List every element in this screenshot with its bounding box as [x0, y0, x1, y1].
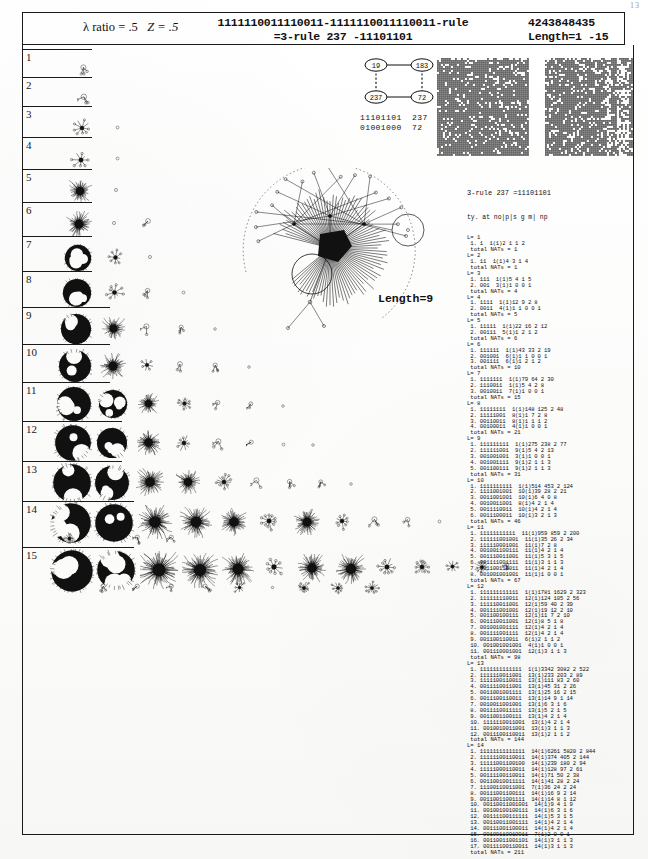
- row-number-3: 3: [26, 108, 32, 120]
- basin-glyph: [174, 433, 194, 453]
- basin-glyph: [174, 358, 189, 373]
- attractor-block: L= 12 1. 111111111111 1(1)1781 1629 2 32…: [467, 584, 627, 661]
- basin-glyph: [296, 580, 312, 596]
- attractor-block: L= 2 1. 11 1(1)4 3 1 4 total NATs = 1: [467, 253, 627, 271]
- row-separator: [22, 106, 92, 107]
- row-separator: [22, 547, 134, 548]
- attractor-block: L= 9 1. 111111111 1(1)275 238 2 77 2. 11…: [467, 436, 627, 477]
- basin-glyph: [98, 581, 111, 594]
- basin-glyph: [112, 153, 123, 164]
- row-separator: [22, 271, 92, 272]
- basin-glyph: [166, 532, 179, 545]
- basin-glyph: [77, 61, 93, 77]
- basin-glyph: [214, 472, 234, 492]
- basin-glyph: [100, 534, 109, 543]
- basin-glyph: [246, 437, 259, 450]
- basin-glyph: [138, 393, 159, 414]
- basin-glyph: [112, 122, 123, 133]
- basin-glyph: [77, 90, 94, 107]
- basin-glyph: [68, 179, 92, 203]
- row-number-14: 14: [26, 503, 37, 515]
- attractor-block: L= 7 1. 1111111 1(1)79 64 2 30 2. 111001…: [467, 371, 627, 401]
- spacetime-left: [437, 58, 529, 156]
- basin-glyph: [176, 470, 200, 494]
- basin-glyph: [98, 389, 128, 419]
- atlas-page: 13 λ ratio = .5 Z = .5 1111110011110011-…: [0, 0, 648, 859]
- basin-glyph: [178, 287, 189, 298]
- basin-glyph: [210, 360, 223, 373]
- basin-glyph: [308, 440, 318, 450]
- row-number-15: 15: [26, 549, 37, 561]
- spacetime-right: [545, 58, 633, 156]
- row-number-11: 11: [26, 384, 37, 396]
- basin-glyph: [330, 580, 346, 596]
- row-separator: [22, 137, 92, 138]
- basin-glyph: [332, 511, 352, 531]
- basin-glyph: [72, 118, 92, 138]
- basin-glyph: [298, 554, 326, 582]
- basin-glyph: [262, 555, 286, 579]
- basin-glyph: [66, 583, 75, 592]
- lambda-ratio-label: λ ratio = .5: [83, 20, 138, 34]
- row-number-9: 9: [26, 309, 32, 321]
- attractor-block: L= 14 1. 11111111111111 14(1)6261 5820 2…: [467, 743, 627, 855]
- basin-glyph: [278, 401, 288, 411]
- row-number-10: 10: [26, 346, 37, 358]
- basin-glyph: [140, 320, 156, 336]
- rule-number-block: 4243848435 Length=1 -15: [528, 16, 638, 43]
- row-separator: [22, 77, 92, 78]
- basin-glyph: [60, 313, 92, 345]
- basin-glyph: [412, 557, 432, 577]
- basin-glyph: [142, 285, 156, 299]
- row-separator: [22, 236, 92, 237]
- row-separator: [22, 461, 122, 462]
- basin-glyph: [102, 317, 125, 340]
- basin-glyph: [244, 362, 254, 372]
- basin-glyph: [376, 556, 398, 578]
- basin-glyph: [258, 510, 280, 532]
- basin-glyph: [132, 532, 145, 545]
- basin-glyph: [96, 427, 128, 459]
- basin-glyph: [144, 251, 156, 263]
- basin-glyph: [136, 468, 164, 496]
- rule-node-graph: 1918323772: [356, 55, 442, 107]
- basin-glyph: [70, 149, 92, 171]
- basin-glyph: [212, 435, 228, 451]
- attractor-block: L= 11 1. 11111111111 11(1)959 859 2 200 …: [467, 525, 627, 584]
- basin-glyph: [62, 531, 77, 546]
- basin-glyph: [246, 399, 258, 411]
- basin-glyph: [62, 278, 92, 308]
- basin-glyph: [142, 215, 157, 230]
- attractor-block: L= 4 1. 1111 1(1)12 9 2 8 2. 0011 4(1)1 …: [467, 295, 627, 319]
- row-number-4: 4: [26, 139, 32, 151]
- basin-glyph: [132, 581, 145, 594]
- data-panel-title: 3-rule 237 =11101101: [467, 188, 627, 199]
- attractor-block: L= 3 1. 111 1(1)5 4 1 5 2. 001 3(1)1 0 0…: [467, 271, 627, 295]
- basin-glyph: [200, 581, 213, 594]
- row-separator: [22, 382, 110, 383]
- attractor-statistics-panel: 3-rule 237 =11101101 ty. at no|p|s g m| …: [467, 176, 627, 859]
- basin-glyph: [402, 514, 416, 528]
- length-range: Length=1 -15: [528, 30, 638, 44]
- basin-glyph: [108, 217, 120, 229]
- grid-right-rule: [633, 45, 634, 835]
- rule-line-2: =3-rule 237 -11101101: [203, 30, 483, 44]
- basin-glyph: [346, 479, 356, 489]
- row-number-2: 2: [26, 79, 32, 91]
- node-label: 237: [370, 94, 383, 102]
- basin-glyph: [316, 477, 328, 489]
- node-label: 72: [418, 94, 426, 102]
- lambda-z-parameters: λ ratio = .5 Z = .5: [83, 20, 178, 35]
- attractor-block: L= 1 1. 1 1(1)2 1 1 2 total NATs = 1: [467, 235, 627, 253]
- row-number-8: 8: [26, 273, 32, 285]
- attractor-block: L= 8 1. 11111111 1(1)148 125 2 48 2. 111…: [467, 401, 627, 436]
- rule-line-1: 1111110011110011-1111110011110011-rule: [203, 16, 483, 30]
- basin-glyph: [180, 506, 212, 538]
- basin-length-label: Length=9: [378, 292, 433, 305]
- row-number-7: 7: [26, 238, 32, 250]
- basin-glyph: [94, 465, 130, 501]
- row-number-5: 5: [26, 171, 32, 183]
- basin-glyph: [278, 439, 289, 450]
- basin-glyph: [100, 353, 126, 379]
- basin-glyph: [250, 474, 266, 490]
